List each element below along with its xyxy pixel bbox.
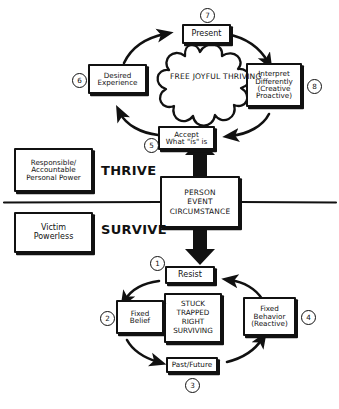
step-number-6: 6 bbox=[72, 73, 87, 88]
step-number-2: 2 bbox=[100, 311, 115, 326]
box-stuck-trapped-right-surviving: STUCK TRAPPED RIGHT SURVIVING bbox=[164, 293, 222, 343]
step-number-7: 7 bbox=[200, 8, 215, 23]
center-line2: EVENT bbox=[170, 197, 231, 207]
thrive-core-line1: FREE bbox=[170, 72, 190, 81]
center-line1: PERSON bbox=[170, 188, 231, 198]
box-present: Present bbox=[182, 24, 231, 44]
present-line1: Present bbox=[191, 30, 221, 38]
resist-line1: Resist bbox=[178, 271, 202, 279]
step-number-8: 8 bbox=[307, 79, 322, 94]
thrive-state-line3: Personal Power bbox=[26, 174, 81, 181]
desired-line2: Experience bbox=[97, 79, 137, 86]
center-line3: CIRCUMSTANCE bbox=[170, 207, 231, 217]
survive-state-line2: Powerless bbox=[34, 233, 74, 241]
label-thrive: THRIVE bbox=[101, 163, 156, 178]
thrive-core-line3: THRIVING bbox=[223, 72, 261, 81]
box-person-event-circumstance: PERSON EVENT CIRCUMSTANCE bbox=[160, 176, 240, 228]
label-survive: SURVIVE bbox=[101, 222, 167, 237]
box-survive-state: Victim Powerless bbox=[14, 212, 93, 253]
step-number-4: 4 bbox=[301, 310, 316, 325]
box-thrive-state: Responsible/ Accountable Personal Power bbox=[14, 148, 93, 192]
box-fixed-belief: Fixed Belief bbox=[116, 300, 164, 334]
box-desired-experience: Desired Experience bbox=[88, 64, 147, 94]
box-past-future: Past/Future bbox=[166, 357, 218, 373]
box-resist: Resist bbox=[165, 266, 215, 284]
step-number-5: 5 bbox=[144, 138, 159, 153]
arrow-down-to-survive bbox=[185, 228, 215, 265]
thrive-core-line2: JOYFUL bbox=[193, 72, 221, 81]
fixed-behavior-line3: (Reactive) bbox=[251, 320, 288, 327]
step-number-3: 3 bbox=[185, 378, 200, 393]
box-accept-what-is: Accept What "is" is bbox=[158, 126, 215, 150]
box-interpret-differently: Interpret Differently (Creative Proactiv… bbox=[246, 63, 302, 107]
free-joyful-thriving-cloud bbox=[158, 44, 250, 125]
thrive-core-label: FREE JOYFUL THRIVING bbox=[170, 72, 232, 81]
survive-core-line4: SURVIVING bbox=[173, 327, 212, 336]
fixed-belief-line2: Belief bbox=[130, 317, 150, 324]
interpret-line4: Proactive) bbox=[255, 92, 293, 99]
step-number-1: 1 bbox=[150, 256, 165, 271]
past-future-line1: Past/Future bbox=[172, 361, 212, 368]
accept-line2: What "is" is bbox=[166, 138, 208, 145]
diagram-canvas: Responsible/ Accountable Personal Power … bbox=[0, 0, 339, 409]
box-fixed-behavior: Fixed Behavior (Reactive) bbox=[243, 297, 296, 336]
